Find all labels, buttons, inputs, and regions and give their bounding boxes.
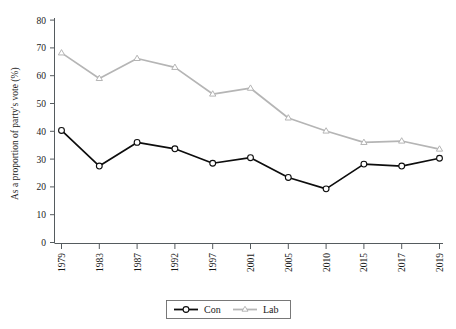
x-tick-label-1983: 1983 <box>95 253 105 272</box>
y-axis-ticks: 0 10 20 30 40 50 60 70 80 <box>37 16 55 248</box>
y-tick-label-0: 0 <box>41 238 46 248</box>
x-tick-label-2019: 2019 <box>435 253 445 272</box>
y-tick-label-80: 80 <box>37 16 47 26</box>
data-point-con <box>59 128 65 134</box>
y-tick-label-10: 10 <box>37 210 47 220</box>
data-point-lab <box>247 85 253 90</box>
data-point-con <box>172 146 178 152</box>
data-point-con <box>323 186 329 192</box>
data-point-lab <box>58 50 64 55</box>
data-point-con <box>248 155 254 161</box>
data-point-con <box>285 175 291 181</box>
x-tick-label-2017: 2017 <box>397 253 407 272</box>
legend-label-con: Con <box>204 304 221 315</box>
y-tick-label-50: 50 <box>37 99 47 109</box>
legend-label-lab: Lab <box>263 304 279 315</box>
plot-area <box>58 50 442 192</box>
chart-legend: Con Lab <box>167 301 291 319</box>
series-line-lab <box>62 53 440 149</box>
legend-marker-circle-icon <box>183 307 189 313</box>
x-tick-label-2015: 2015 <box>359 253 369 272</box>
x-tick-label-1979: 1979 <box>57 253 67 272</box>
data-point-con <box>361 161 367 167</box>
data-point-con <box>399 163 405 169</box>
chart-container: As a proportion of party's vote (%) 0 10… <box>0 0 456 329</box>
series-markers-con <box>59 128 443 192</box>
data-point-lab <box>134 55 140 60</box>
y-tick-label-60: 60 <box>37 71 47 81</box>
series-markers-lab <box>58 50 442 152</box>
y-axis-label: As a proportion of party's vote (%) <box>10 67 21 200</box>
y-tick-label-40: 40 <box>37 127 47 137</box>
data-point-con <box>210 160 216 166</box>
x-tick-label-1987: 1987 <box>133 253 143 272</box>
data-point-con <box>134 140 140 146</box>
x-tick-label-1992: 1992 <box>170 253 180 272</box>
line-chart: As a proportion of party's vote (%) 0 10… <box>0 0 456 329</box>
y-tick-label-70: 70 <box>37 43 47 53</box>
x-axis-ticks: 1979 1983 1987 1992 1997 2001 2005 2010 … <box>57 244 445 273</box>
y-tick-label-30: 30 <box>37 155 47 165</box>
x-tick-label-2001: 2001 <box>246 253 256 272</box>
y-tick-label-20: 20 <box>37 182 47 192</box>
data-point-con <box>96 163 102 169</box>
data-point-con <box>437 155 443 161</box>
x-tick-label-1997: 1997 <box>208 253 218 272</box>
x-tick-label-2005: 2005 <box>284 253 294 272</box>
x-tick-label-2010: 2010 <box>322 253 332 272</box>
